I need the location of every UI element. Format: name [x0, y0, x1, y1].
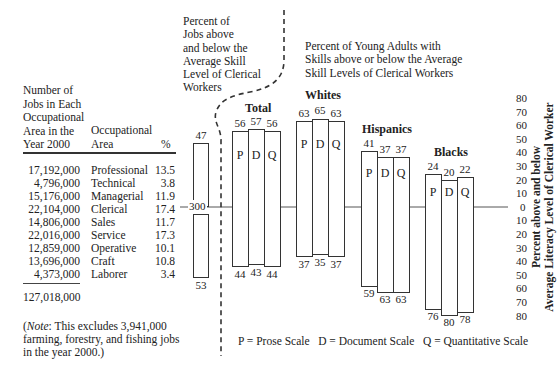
total-d-letter: D: [248, 148, 264, 163]
group-title-total: Total: [245, 101, 271, 116]
blacks-q-above: 22: [455, 163, 475, 175]
hispanics-d-letter: D: [377, 166, 393, 181]
axis-title: Average Literacy Level of Clerical Worke…: [543, 92, 556, 322]
hispanics-p-letter: P: [361, 166, 377, 181]
jobs-below-label: 53: [191, 279, 211, 291]
whites-p-letter: P: [296, 137, 312, 152]
whites-q-below: 37: [326, 258, 346, 270]
total-q-above: 56: [262, 117, 282, 129]
whites-d-letter: D: [312, 137, 328, 152]
blacks-q-below: 78: [455, 313, 475, 325]
group-title-hispanics: Hispanics: [362, 122, 412, 137]
group-title-blacks: Blacks: [434, 145, 468, 160]
hispanics-q-below: 63: [391, 293, 411, 305]
hispanics-q-above: 37: [391, 143, 411, 155]
jobs-above-label: 47: [191, 129, 211, 141]
jobs-below-bar: [193, 214, 209, 278]
whites-q-letter: Q: [328, 137, 344, 152]
hispanics-q-letter: Q: [393, 166, 409, 181]
axis-title-top: Percent above and below: [530, 92, 543, 322]
blacks-d-bar: [441, 180, 458, 316]
total-q-letter: Q: [264, 148, 280, 163]
jobs-zero-label: 300: [188, 200, 207, 212]
jobs-above-bar: [193, 143, 209, 207]
blacks-d-letter: D: [441, 185, 457, 200]
group-title-whites: Whites: [305, 88, 341, 103]
blacks-p-letter: P: [425, 185, 441, 200]
total-p-letter: P: [232, 148, 248, 163]
whites-q-above: 63: [326, 107, 346, 119]
blacks-q-letter: Q: [457, 185, 473, 200]
axis-title-line: Percent above and below: [530, 92, 543, 322]
total-q-below: 44: [262, 268, 282, 280]
axis-title-line: Average Literacy Level of Clerical Worke…: [543, 92, 556, 322]
scale-legend: P = Prose Scale D = Document Scale Q = Q…: [238, 335, 528, 347]
